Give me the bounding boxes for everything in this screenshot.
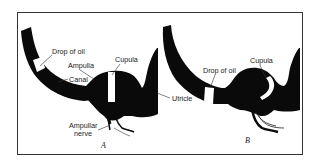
label-canal-a: Canal <box>69 75 88 84</box>
label-drop-of-oil-b: Drop of oil <box>203 66 236 75</box>
canal-b-shape <box>163 25 230 104</box>
panel-letter-a: A <box>100 141 106 150</box>
label-cupula-a: Cupula <box>115 55 138 64</box>
cupula-a <box>108 72 115 102</box>
panel-letter-b: B <box>245 136 250 145</box>
panel-b: Drop of oil Cupula B <box>163 25 300 145</box>
label-utricle: Utricle <box>172 94 192 103</box>
label-drop-of-oil-a: Drop of oil <box>52 47 85 56</box>
leader-ampullar-nerve <box>98 126 108 130</box>
diagram-canvas: Drop of oil Ampulla Canal Cupula Ampulla… <box>0 0 317 163</box>
semicircular-canal-diagram: Drop of oil Ampulla Canal Cupula Ampulla… <box>0 0 317 163</box>
panel-a: Drop of oil Ampulla Canal Cupula Ampulla… <box>21 27 158 150</box>
leader-utricle <box>157 93 170 98</box>
label-cupula-b: Cupula <box>250 56 273 65</box>
label-ampulla-a: Ampulla <box>68 61 94 70</box>
oil-drop-b <box>204 87 214 104</box>
label-ampullar-nerve-line2: nerve <box>74 129 92 138</box>
